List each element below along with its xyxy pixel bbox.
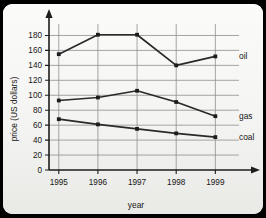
- series-label-coal: coal: [239, 132, 255, 142]
- y-tick-label: 120: [28, 76, 42, 85]
- x-tick-label: 1997: [128, 178, 147, 187]
- x-axis-title: year: [128, 200, 145, 210]
- series-label-oil: oil: [239, 51, 248, 61]
- data-point-gas-1995: [57, 99, 61, 103]
- data-point-gas-1998: [174, 100, 178, 104]
- y-tick-label: 160: [28, 46, 42, 55]
- data-point-oil-1995: [57, 52, 61, 56]
- y-tick-label: 140: [28, 61, 42, 70]
- y-tick-label: 0: [37, 166, 42, 175]
- y-tick-label: 100: [28, 91, 42, 100]
- series-label-gas: gas: [239, 111, 253, 121]
- data-point-oil-1999: [213, 55, 217, 59]
- y-axis-arrow: [45, 9, 52, 18]
- data-point-coal-1999: [213, 135, 217, 139]
- data-point-oil-1996: [96, 33, 100, 37]
- x-axis-tick-labels: 19951996199719981999: [50, 178, 225, 187]
- y-axis-title: price (US dollars): [9, 76, 19, 141]
- data-point-gas-1997: [135, 89, 139, 93]
- data-point-coal-1997: [135, 127, 139, 131]
- x-tick-label: 1998: [167, 178, 186, 187]
- data-point-oil-1998: [174, 63, 178, 67]
- y-tick-label: 80: [33, 106, 43, 115]
- axes: [45, 9, 260, 174]
- x-tick-label: 1995: [50, 178, 69, 187]
- y-tick-label: 20: [33, 151, 43, 160]
- x-axis-arrow: [251, 166, 260, 173]
- series-labels-group: oilgascoal: [239, 51, 255, 142]
- y-axis-tick-labels: 020406080100120140160180: [28, 31, 42, 175]
- chart-card: 020406080100120140160180 199519961997199…: [3, 4, 263, 214]
- y-tick-label: 180: [28, 31, 42, 40]
- data-point-gas-1996: [96, 96, 100, 100]
- chart-canvas: 020406080100120140160180 199519961997199…: [3, 4, 263, 214]
- data-point-gas-1999: [213, 114, 217, 118]
- data-point-oil-1997: [135, 33, 139, 37]
- data-point-coal-1998: [174, 131, 178, 135]
- x-tick-label: 1999: [206, 178, 225, 187]
- line-chart: 020406080100120140160180 199519961997199…: [3, 4, 263, 214]
- y-tick-label: 60: [33, 121, 43, 130]
- y-tick-label: 40: [33, 136, 43, 145]
- vertical-gridlines: [59, 24, 216, 170]
- data-point-coal-1995: [57, 117, 61, 121]
- data-point-coal-1996: [96, 123, 100, 127]
- x-tick-label: 1996: [89, 178, 108, 187]
